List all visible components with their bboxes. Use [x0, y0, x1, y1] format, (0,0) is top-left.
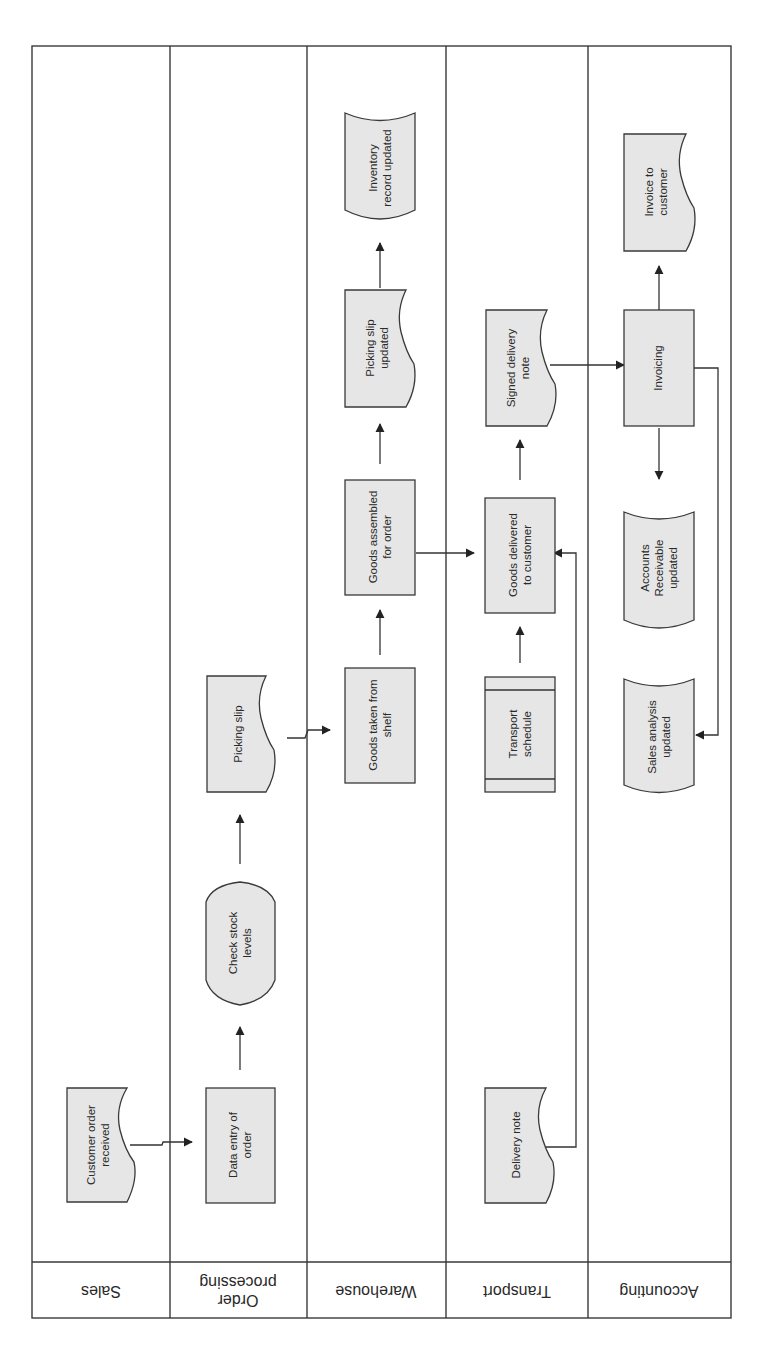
lane-label-accounting: Accounting	[619, 1283, 698, 1300]
node-goods-delivered-to-customer[interactable]: Goods delivered to customer	[485, 498, 555, 613]
node-picking-slip-updated[interactable]: Picking slip updated	[345, 290, 415, 407]
node-label: Transport	[507, 709, 519, 759]
node-data-entry-of-order[interactable]: Data entry of order	[206, 1088, 275, 1203]
node-label: Customer order	[85, 1105, 97, 1185]
node-label: Accounts	[639, 544, 651, 592]
node-invoicing[interactable]: Invoicing	[624, 310, 694, 426]
node-delivery-note[interactable]: Delivery note	[485, 1088, 554, 1203]
node-label: record updated	[381, 129, 393, 206]
node-label: Goods delivered	[507, 513, 519, 597]
node-label: Signed delivery	[505, 328, 517, 407]
node-label: updated	[667, 547, 679, 589]
node-customer-order-received[interactable]: Customer order received	[67, 1088, 135, 1202]
node-label: Invoice to	[643, 167, 655, 216]
node-goods-taken-from-shelf[interactable]: Goods taken from shelf	[345, 668, 415, 783]
node-label: Invoicing	[652, 345, 664, 390]
node-label: Inventory	[367, 144, 379, 192]
node-label: Delivery note	[510, 1111, 522, 1178]
lane-header-accounting: Accounting	[619, 1283, 698, 1300]
node-label: shelf	[381, 712, 393, 737]
lane-label-order-line1: Order	[217, 1292, 259, 1309]
node-label: order	[241, 1131, 253, 1158]
lane-label-warehouse: Warehouse	[335, 1283, 416, 1300]
node-label: note	[519, 357, 531, 379]
lane-header-warehouse: Warehouse	[335, 1283, 416, 1300]
node-picking-slip[interactable]: Picking slip	[207, 676, 275, 792]
node-inventory-record-updated[interactable]: Inventory record updated	[345, 113, 415, 219]
lane-header-order-processing: Order processing	[199, 1274, 276, 1309]
lane-header-transport: Transport	[483, 1283, 551, 1300]
node-label: received	[99, 1123, 111, 1166]
node-label: updated	[378, 327, 390, 369]
node-label: Sales analysis	[646, 700, 658, 774]
node-transport-schedule[interactable]: Transport schedule	[485, 677, 555, 792]
lane-label-transport: Transport	[483, 1283, 551, 1300]
node-label: to customer	[521, 525, 533, 585]
lane-label-order-line2: processing	[199, 1274, 276, 1291]
node-label: schedule	[521, 711, 533, 757]
node-signed-delivery-note[interactable]: Signed delivery note	[486, 310, 556, 426]
node-invoice-to-customer[interactable]: Invoice to customer	[624, 134, 695, 251]
lane-header-sales: Sales	[81, 1283, 121, 1300]
node-check-stock-levels[interactable]: Check stock levels	[206, 882, 275, 1005]
lane-label-sales: Sales	[81, 1283, 121, 1300]
node-label: Check stock	[227, 911, 239, 974]
node-accounts-receivable-updated[interactable]: Accounts Receivable updated	[624, 512, 694, 628]
node-label: Goods assembled	[367, 491, 379, 584]
node-label: customer	[657, 168, 669, 215]
node-label: updated	[660, 716, 672, 758]
node-label: Goods taken from	[367, 679, 379, 770]
node-label: for order	[381, 515, 393, 559]
node-label: levels	[241, 928, 253, 958]
node-label: Picking slip	[232, 705, 244, 763]
swimlane-diagram: Sales Order processing Warehouse Transpo…	[0, 0, 762, 1348]
node-label: Picking slip	[364, 319, 376, 377]
node-goods-assembled-for-order[interactable]: Goods assembled for order	[345, 480, 415, 595]
node-sales-analysis-updated[interactable]: Sales analysis updated	[624, 679, 694, 793]
node-label: Data entry of	[227, 1111, 239, 1178]
node-label: Receivable	[653, 540, 665, 597]
